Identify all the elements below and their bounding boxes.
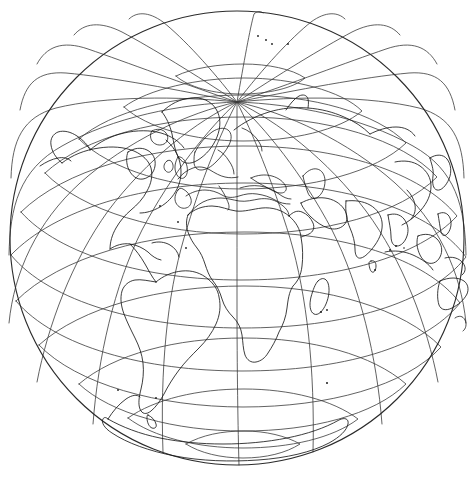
islet-azores xyxy=(159,205,161,207)
islet-arctic-a xyxy=(265,39,267,41)
islet-arctic-b xyxy=(257,35,259,37)
islet-canary xyxy=(177,221,179,223)
islet-south-georgia xyxy=(155,397,157,399)
islet-maldives xyxy=(374,269,376,271)
islet-falkland xyxy=(117,389,119,391)
islet-andaman xyxy=(389,249,391,251)
islet-mauritius xyxy=(326,309,328,311)
islet-severnaya xyxy=(287,43,289,45)
globe-canvas xyxy=(0,0,474,478)
islet-sunda-a xyxy=(403,247,405,249)
globe-figure xyxy=(0,0,474,478)
islet-nicobar xyxy=(395,245,397,247)
islet-cape-verde xyxy=(185,247,187,249)
islet-kerguelen xyxy=(326,382,328,384)
islet-arctic-c xyxy=(271,43,273,45)
islet-reunion xyxy=(320,311,322,313)
